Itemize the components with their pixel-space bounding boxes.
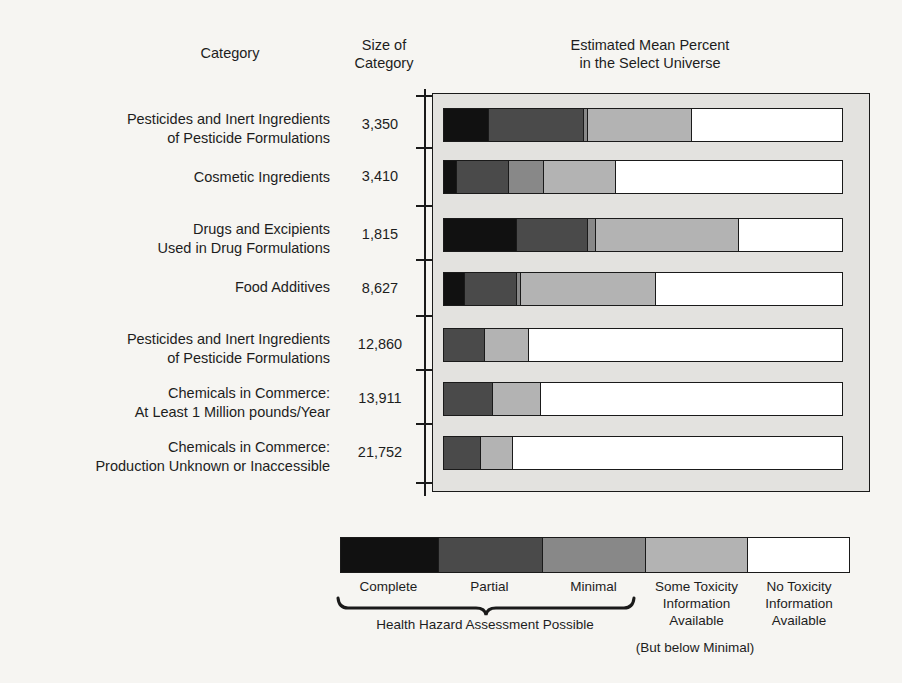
bar-segment [595, 219, 738, 251]
axis-tick [416, 205, 433, 207]
legend-swatch [341, 538, 438, 572]
axis-tick [416, 259, 433, 261]
bar-segment [738, 219, 841, 251]
bar-segment [444, 383, 492, 415]
bar-segment [444, 273, 464, 305]
row-label: Chemicals in Commerce: Production Unknow… [0, 438, 330, 476]
bar-segment [587, 109, 690, 141]
row-label: Chemicals in Commerce: At Least 1 Millio… [0, 384, 330, 422]
y-axis-line [424, 89, 426, 496]
axis-tick [416, 423, 433, 425]
legend-swatch [645, 538, 748, 572]
stacked-bar [443, 328, 843, 362]
stacked-bar [443, 218, 843, 252]
bar-segment [444, 109, 488, 141]
bar-segment [516, 219, 588, 251]
row-size-value: 12,860 [340, 336, 420, 352]
chart-container: Category Size of Category Estimated Mean… [0, 0, 902, 683]
row-label: Drugs and Excipients Used in Drug Formul… [0, 220, 330, 258]
bar-segment [492, 383, 540, 415]
health-hazard-brace-icon [336, 596, 636, 616]
row-size-value: 3,410 [340, 168, 420, 184]
bar-segment [508, 161, 544, 193]
stacked-bar [443, 108, 843, 142]
stacked-bar [443, 160, 843, 194]
bar-segment [540, 383, 842, 415]
axis-tick [416, 147, 433, 149]
stacked-bar [443, 436, 843, 470]
row-label: Cosmetic Ingredients [0, 168, 330, 187]
axis-tick [416, 369, 433, 371]
row-size-value: 8,627 [340, 280, 420, 296]
bar-segment [464, 273, 516, 305]
header-size-of-category: Size of Category [342, 36, 426, 72]
bar-segment [543, 161, 615, 193]
bar-segment [691, 109, 842, 141]
legend-swatch [542, 538, 645, 572]
legend-swatch-bar [340, 537, 850, 573]
row-size-value: 21,752 [340, 444, 420, 460]
bar-segment [444, 161, 456, 193]
stacked-bar [443, 272, 843, 306]
bar-segment [480, 437, 512, 469]
legend-swatch [747, 538, 849, 572]
row-label: Pesticides and Inert Ingredients of Pest… [0, 110, 330, 148]
bar-segment [444, 437, 480, 469]
row-size-value: 3,350 [340, 116, 420, 132]
bar-segment [444, 219, 516, 251]
below-minimal-label: (But below Minimal) [630, 640, 760, 655]
header-estimated-mean-percent: Estimated Mean Percent in the Select Uni… [470, 36, 830, 72]
brace-note-label: Health Hazard Assessment Possible [330, 617, 640, 632]
row-label: Food Additives [0, 278, 330, 297]
axis-tick [416, 315, 433, 317]
row-label: Pesticides and Inert Ingredients of Pest… [0, 330, 330, 368]
row-size-value: 13,911 [340, 390, 420, 406]
bar-segment [520, 273, 655, 305]
bar-segment [587, 219, 595, 251]
bar-segment [444, 329, 484, 361]
bar-segment [484, 329, 528, 361]
row-size-value: 1,815 [340, 226, 420, 242]
axis-tick [416, 482, 433, 484]
bar-segment [655, 273, 842, 305]
bar-segment [615, 161, 842, 193]
bar-segment [488, 109, 584, 141]
bar-segment [528, 329, 842, 361]
bar-segment [512, 437, 842, 469]
axis-tick [416, 95, 433, 97]
legend-label: No Toxicity Information Available [738, 578, 860, 629]
legend-swatch [438, 538, 543, 572]
stacked-bar [443, 382, 843, 416]
header-category: Category [120, 44, 340, 62]
bar-segment [456, 161, 508, 193]
